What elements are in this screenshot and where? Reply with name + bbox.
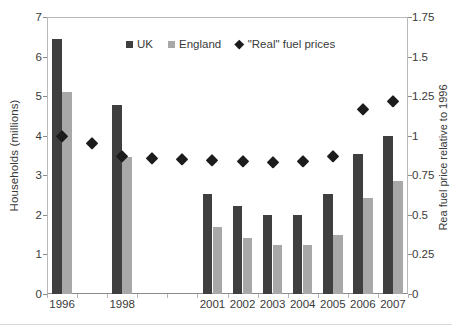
legend-label-england: England <box>179 38 221 50</box>
legend-item-england: England <box>168 38 221 50</box>
y-tick-label-right: 1.75 <box>412 12 448 22</box>
x-tickmark <box>408 294 409 298</box>
legend-label-real-fuel-prices: "Real" fuel prices <box>248 38 335 50</box>
marker-real-fuel-price <box>56 130 68 142</box>
x-axis-label: 2001 <box>200 298 226 310</box>
marker-real-fuel-price <box>176 153 188 165</box>
x-axis-label: 2006 <box>350 298 376 310</box>
legend-label-uk: UK <box>137 38 153 50</box>
y-tick-label-right: 1 <box>412 131 448 141</box>
x-axis-label: 2002 <box>230 298 256 310</box>
y-axis-left-ticks: 01234567 <box>8 0 42 332</box>
y-tick-label-left: 3 <box>14 170 42 180</box>
x-axis-labels: 199619982001200220032004200520062007 <box>47 298 408 318</box>
chart-legend: UK England "Real" fuel prices <box>126 38 335 50</box>
y-tick-label-right: 0 <box>412 289 448 299</box>
legend-swatch-diamond-icon <box>235 39 244 48</box>
y-tick-label-left: 2 <box>14 210 42 220</box>
x-axis-label: 2007 <box>380 298 406 310</box>
y-tick-label-right: 1.25 <box>412 91 448 101</box>
y-tick-label-left: 0 <box>14 289 42 299</box>
y-axis-right-ticks: 00.250.50.7511.251.51.75 <box>412 0 452 332</box>
legend-item-uk: UK <box>126 38 153 50</box>
y-tickmark-right <box>408 57 412 58</box>
y-tickmark-right <box>408 215 412 216</box>
chart-container: Households (millions) Rea fuel price rel… <box>0 0 452 332</box>
y-tickmark-right <box>408 136 412 137</box>
marker-real-fuel-price <box>297 155 309 167</box>
marker-real-fuel-price <box>116 149 128 161</box>
y-tick-label-left: 7 <box>14 12 42 22</box>
x-axis-label: 2004 <box>290 298 316 310</box>
marker-real-fuel-price <box>327 150 339 162</box>
y-tick-label-left: 4 <box>14 131 42 141</box>
marker-real-fuel-price <box>146 152 158 164</box>
legend-swatch-square-icon <box>168 41 175 48</box>
marker-real-fuel-price <box>206 154 218 166</box>
y-tickmark-right <box>408 17 412 18</box>
marker-real-fuel-price <box>86 137 98 149</box>
bottom-divider <box>0 324 452 325</box>
y-tick-label-left: 5 <box>14 91 42 101</box>
x-axis-label: 1996 <box>49 298 75 310</box>
legend-item-real-fuel-prices: "Real" fuel prices <box>236 38 335 50</box>
marker-real-fuel-price <box>357 103 369 115</box>
fuel-price-markers-layer <box>47 17 408 294</box>
y-tick-label-right: 0.5 <box>412 210 448 220</box>
marker-real-fuel-price <box>267 156 279 168</box>
x-axis-label: 1998 <box>109 298 135 310</box>
marker-real-fuel-price <box>237 155 249 167</box>
marker-real-fuel-price <box>387 95 399 107</box>
y-tickmark-right <box>408 96 412 97</box>
y-tickmark-right <box>408 254 412 255</box>
y-tick-label-right: 0.75 <box>412 170 448 180</box>
y-tick-label-right: 0.25 <box>412 249 448 259</box>
y-tick-label-left: 1 <box>14 249 42 259</box>
legend-swatch-square-icon <box>126 41 133 48</box>
y-tick-label-left: 6 <box>14 52 42 62</box>
x-axis-label: 2005 <box>320 298 346 310</box>
y-tickmark-right <box>408 175 412 176</box>
x-axis-label: 2003 <box>260 298 286 310</box>
y-tick-label-right: 1.5 <box>412 52 448 62</box>
